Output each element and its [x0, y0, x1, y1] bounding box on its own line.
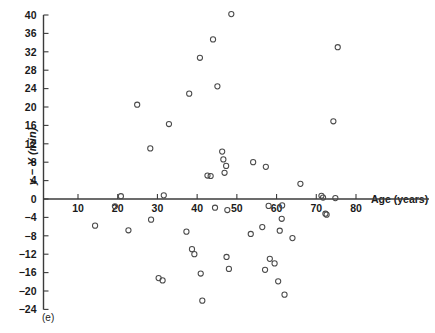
y-axis-tick-label: 16: [25, 119, 37, 131]
data-point: [92, 223, 97, 228]
data-point: [331, 119, 336, 124]
data-point: [200, 298, 205, 303]
y-axis-tick-label: 0: [31, 193, 37, 205]
y-axis-tick-label: −4: [25, 211, 37, 223]
data-point: [277, 228, 282, 233]
data-point: [160, 278, 165, 283]
data-point: [272, 261, 277, 266]
y-axis-tick-label: −16: [19, 266, 37, 278]
data-point: [263, 164, 268, 169]
data-point: [290, 236, 295, 241]
x-axis-tick-label: 70: [310, 202, 322, 214]
data-point: [224, 163, 229, 168]
data-point: [221, 157, 226, 162]
x-axis-tick-label: 10: [72, 202, 84, 214]
y-axis-tick-label: 8: [31, 156, 37, 168]
data-point: [135, 102, 140, 107]
y-axis-tick-label: −20: [19, 285, 37, 297]
data-point: [220, 149, 225, 154]
data-point: [222, 170, 227, 175]
data-point: [212, 205, 217, 210]
x-axis: 1020304050607080: [44, 194, 430, 214]
data-point: [118, 194, 123, 199]
data-point: [276, 279, 281, 284]
data-point: [166, 121, 171, 126]
x-axis-tick-label: 80: [350, 202, 362, 214]
scatter-plot-canvas: 4036322824201612840−4−8−12−16−20−24 1020…: [0, 0, 435, 333]
y-axis-tick-label: 24: [25, 82, 37, 94]
data-point: [224, 254, 229, 259]
data-point: [148, 217, 153, 222]
residual-scatter-figure: y − Y (min) Age (years) (e) 403632282420…: [0, 0, 435, 333]
y-axis-tick-label: −24: [19, 303, 37, 315]
y-axis-tick-label: −12: [19, 248, 37, 260]
data-point: [197, 55, 202, 60]
data-point: [148, 146, 153, 151]
data-point: [210, 37, 215, 42]
y-axis-tick-label: 32: [25, 46, 37, 58]
data-point: [267, 256, 272, 261]
data-point: [248, 231, 253, 236]
data-point: [184, 229, 189, 234]
y-axis: 4036322824201612840−4−8−12−16−20−24: [19, 9, 49, 315]
data-point: [279, 216, 284, 221]
data-point: [208, 173, 213, 178]
data-point: [298, 181, 303, 186]
data-point: [225, 207, 230, 212]
x-axis-tick-label: 40: [191, 202, 203, 214]
y-axis-tick-label: −8: [25, 230, 37, 242]
y-axis-tick-label: 36: [25, 27, 37, 39]
y-axis-tick-label: 28: [25, 64, 37, 76]
x-axis-tick-label: 30: [152, 202, 164, 214]
data-point: [260, 224, 265, 229]
data-point: [215, 84, 220, 89]
data-point: [229, 11, 234, 16]
data-point: [262, 267, 267, 272]
x-axis-tick-label: 50: [231, 202, 243, 214]
data-point: [187, 91, 192, 96]
data-point: [192, 252, 197, 257]
y-axis-tick-label: 20: [25, 101, 37, 113]
data-point: [335, 45, 340, 50]
data-points: [92, 11, 340, 303]
data-point: [198, 271, 203, 276]
data-point: [189, 247, 194, 252]
data-point: [126, 228, 131, 233]
data-point: [226, 266, 231, 271]
y-axis-tick-label: 40: [25, 9, 37, 21]
y-axis-tick-label: 4: [31, 174, 37, 186]
y-axis-tick-label: 12: [25, 138, 37, 150]
data-point: [161, 193, 166, 198]
data-point: [251, 160, 256, 165]
data-point: [282, 292, 287, 297]
data-point: [333, 195, 338, 200]
